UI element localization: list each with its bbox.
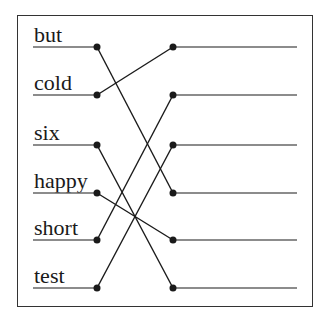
matching-lines xyxy=(0,0,327,322)
left-dot-icon xyxy=(94,285,101,292)
left-dot-icon xyxy=(94,92,101,99)
connection-line xyxy=(97,47,173,95)
connection-line xyxy=(97,47,173,193)
left-dot-icon xyxy=(94,142,101,149)
right-dot-icon xyxy=(170,237,177,244)
right-dot-icon xyxy=(170,285,177,292)
left-dot-icon xyxy=(94,44,101,51)
right-dot-icon xyxy=(170,190,177,197)
right-dot-icon xyxy=(170,142,177,149)
right-dot-icon xyxy=(170,44,177,51)
right-dot-icon xyxy=(170,92,177,99)
left-dot-icon xyxy=(94,237,101,244)
left-dot-icon xyxy=(94,190,101,197)
